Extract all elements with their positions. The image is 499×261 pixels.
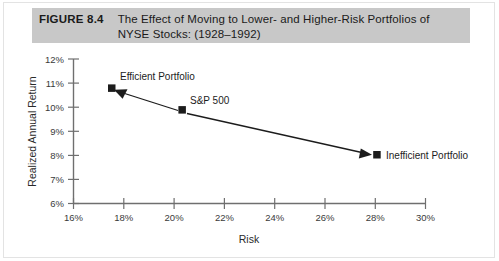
annotation-arrows: [114, 89, 372, 158]
x-tick-label: 20%: [165, 212, 185, 223]
y-axis-tick-labels: 12% 11% 10% 9% 8% 7% 6%: [45, 54, 65, 210]
figure-number-label: FIGURE 8.4: [39, 12, 104, 27]
marker-inefficient-portfolio: [373, 151, 381, 159]
label-inefficient-portfolio: Inefficient Portfolio: [386, 150, 469, 161]
scatter-chart: 12% 11% 10% 9% 8% 7% 6% 16%: [0, 44, 499, 261]
data-point-labels: Efficient Portfolio S&P 500 Inefficient …: [120, 71, 469, 161]
y-axis-title: Realized Annual Return: [26, 76, 38, 186]
y-tick-label: 10%: [45, 102, 65, 113]
marker-efficient-portfolio: [108, 84, 116, 92]
x-tick-label: 24%: [265, 212, 285, 223]
figure-caption-bar: FIGURE 8.4 The Effect of Moving to Lower…: [32, 8, 470, 43]
x-axis-title: Risk: [239, 233, 260, 245]
marker-sp-500: [178, 106, 186, 114]
y-tick-label: 9%: [50, 126, 64, 137]
label-sp-500: S&P 500: [190, 95, 230, 106]
x-tick-label: 28%: [366, 212, 386, 223]
figure-title-text: The Effect of Moving to Lower- and Highe…: [118, 12, 462, 41]
chart-plot-area: 12% 11% 10% 9% 8% 7% 6% 16%: [0, 44, 499, 261]
x-axis-tick-labels: 16% 18% 20% 22% 24% 26% 28% 30%: [64, 212, 436, 223]
x-tick-label: 18%: [114, 212, 134, 223]
x-tick-label: 22%: [215, 212, 235, 223]
y-tick-label: 8%: [50, 150, 64, 161]
y-tick-label: 12%: [45, 54, 65, 65]
arrow-to-inefficient-portfolio: [187, 114, 372, 159]
figure-container: FIGURE 8.4 The Effect of Moving to Lower…: [0, 0, 499, 261]
y-tick-label: 6%: [50, 198, 64, 209]
arrow-to-efficient-portfolio: [114, 89, 178, 110]
y-tick-label: 7%: [50, 174, 64, 185]
label-efficient-portfolio: Efficient Portfolio: [120, 71, 195, 82]
x-tick-label: 16%: [64, 212, 84, 223]
y-tick-label: 11%: [46, 78, 65, 89]
x-tick-label: 26%: [315, 212, 335, 223]
x-tick-label: 30%: [416, 212, 436, 223]
